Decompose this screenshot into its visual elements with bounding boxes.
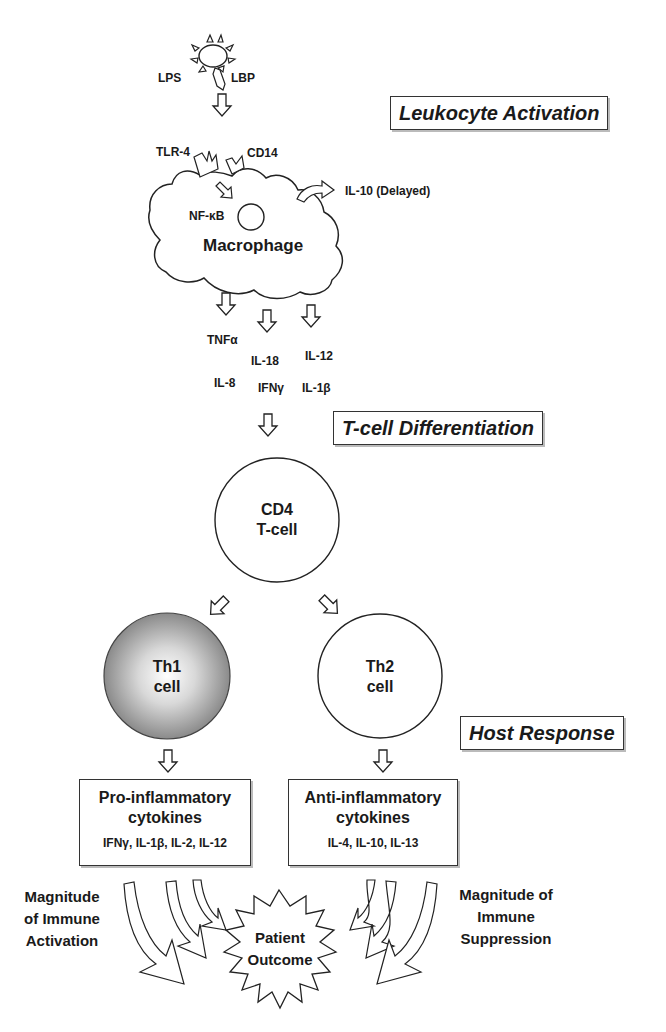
il8-label: IL-8: [214, 377, 235, 389]
cd4-tcell-label: CD4 T-cell: [237, 500, 317, 540]
pro-inflammatory-title-line2: cytokines: [80, 808, 250, 828]
cd4-line2: T-cell: [237, 520, 317, 540]
immune-suppression-line2: Immune: [450, 906, 562, 928]
stage-tcell-differentiation: T-cell Differentiation: [333, 411, 543, 445]
anti-inflammatory-title-line1: Anti-inflammatory: [289, 788, 457, 808]
th1-line2: cell: [127, 677, 207, 697]
cd14-label: CD14: [247, 147, 278, 159]
ifng-label: IFNγ: [258, 382, 284, 394]
immune-activation-label: Magnitude of Immune Activation: [12, 886, 112, 952]
immune-activation-line2: of Immune: [12, 908, 112, 930]
lbp-label: LBP: [231, 72, 255, 84]
il12-label: IL-12: [305, 350, 333, 362]
pro-inflammatory-title: Pro-inflammatory cytokines: [80, 788, 250, 828]
il1b-label: IL-1β: [302, 382, 331, 394]
down-arrow-icon: [217, 293, 235, 315]
down-arrow-icon: [213, 94, 231, 116]
suppression-arrows-icon: [350, 880, 437, 984]
diagonal-arrow-right-icon: [315, 591, 343, 619]
il18-label: IL-18: [251, 355, 279, 367]
nfkb-label: NF-κB: [189, 210, 224, 222]
patient-outcome-line1: Patient: [240, 927, 320, 949]
stage-leukocyte-activation: Leukocyte Activation: [390, 96, 608, 130]
stage-host-response: Host Response: [460, 716, 624, 750]
th1-line1: Th1: [127, 657, 207, 677]
tlr4-label: TLR-4: [156, 146, 190, 158]
il10-delayed-label: IL-10 (Delayed): [345, 185, 430, 197]
anti-inflammatory-title-line2: cytokines: [289, 808, 457, 828]
lps-label: LPS: [158, 72, 181, 84]
tnfa-label: TNFα: [207, 334, 238, 346]
patient-outcome-line2: Outcome: [240, 949, 320, 971]
diagram-graphics: [0, 0, 666, 1032]
down-arrow-icon: [259, 414, 277, 436]
immune-suppression-line1: Magnitude of: [450, 884, 562, 906]
immune-suppression-label: Magnitude of Immune Suppression: [450, 884, 562, 950]
pro-inflammatory-list: IFNγ, IL-1β, IL-2, IL-12: [80, 836, 250, 850]
lps-particle-icon: [191, 35, 235, 90]
pro-inflammatory-box: Pro-inflammatory cytokines IFNγ, IL-1β, …: [79, 779, 251, 866]
macrophage-label: Macrophage: [203, 237, 303, 254]
th1-cell-label: Th1 cell: [127, 657, 207, 697]
immune-activation-line3: Activation: [12, 930, 112, 952]
immune-activation-line1: Magnitude: [12, 886, 112, 908]
th2-line2: cell: [340, 677, 420, 697]
immune-suppression-line3: Suppression: [450, 928, 562, 950]
cd4-line1: CD4: [237, 500, 317, 520]
down-arrow-icon: [302, 305, 320, 327]
pro-inflammatory-title-line1: Pro-inflammatory: [80, 788, 250, 808]
down-arrow-icon: [258, 310, 276, 332]
down-arrow-icon: [159, 750, 177, 772]
th2-cell-label: Th2 cell: [340, 657, 420, 697]
down-arrow-icon: [374, 750, 392, 772]
activation-arrows-icon: [124, 880, 226, 984]
anti-inflammatory-list: IL-4, IL-10, IL-13: [289, 836, 457, 850]
patient-outcome-label: Patient Outcome: [240, 927, 320, 971]
diagonal-arrow-left-icon: [204, 592, 232, 620]
nucleus-icon: [238, 204, 264, 230]
anti-inflammatory-box: Anti-inflammatory cytokines IL-4, IL-10,…: [288, 779, 458, 866]
anti-inflammatory-title: Anti-inflammatory cytokines: [289, 788, 457, 828]
th2-line1: Th2: [340, 657, 420, 677]
